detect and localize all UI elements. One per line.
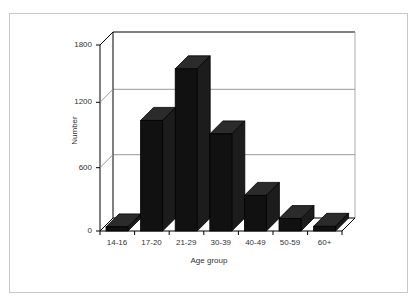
bar-chart-plot-area: 0 600 1200 1800 Number 14-16 17-20 21-29… <box>0 0 418 305</box>
y-tick-label-0: 0 <box>58 226 92 235</box>
bar-21-29 <box>175 56 210 231</box>
x-axis-ticks <box>100 231 342 235</box>
x-axis-title: Age group <box>129 256 289 265</box>
y-axis-ticks <box>96 45 100 231</box>
x-tick-label-60-plus: 60+ <box>305 238 345 247</box>
chart-page: 0 600 1200 1800 Number 14-16 17-20 21-29… <box>0 0 418 305</box>
y-tick-label-600: 600 <box>58 163 92 172</box>
y-axis-title: Number <box>70 101 79 161</box>
bar-30-39 <box>210 121 245 231</box>
y-tick-label-1800: 1800 <box>58 40 92 49</box>
plot-left-wall <box>100 32 113 231</box>
bar-17-20 <box>141 107 176 231</box>
bar-40-49 <box>244 182 279 231</box>
